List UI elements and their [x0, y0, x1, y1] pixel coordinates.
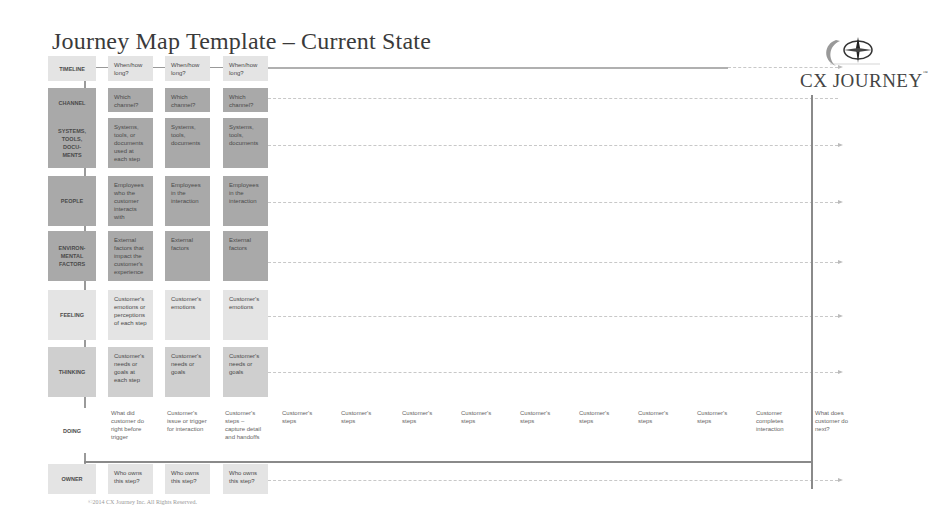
owner-cell: Who owns this step? — [108, 464, 153, 494]
environmental-cell: External factors that impact the custome… — [108, 231, 153, 281]
systems-cell: Systems, tools, or documents used at eac… — [108, 118, 153, 168]
doing-cell: Customer's steps — [402, 409, 442, 425]
row-guide-line — [258, 372, 838, 373]
thinking-cell: Customer's needs or goals — [165, 347, 210, 397]
doing-cell: Customer's steps — [697, 409, 737, 425]
timeline-connector — [96, 67, 108, 68]
right-border-line — [811, 95, 813, 489]
timeline-cell: When/how long? — [223, 56, 268, 81]
doing-cell: What did customer do right before trigge… — [111, 409, 151, 441]
trademark-symbol: ™ — [923, 70, 928, 75]
doing-cell: Customer's steps – capture detail and ha… — [225, 409, 265, 441]
timeline-line — [238, 67, 728, 69]
channel-cell: Which channel? — [223, 88, 268, 112]
timeline-cell: When/how long? — [165, 56, 210, 81]
row-guide-line — [258, 98, 838, 99]
row-guide-line — [258, 480, 838, 481]
environmental-cell: External factors — [165, 231, 210, 281]
doing-cell: Customer's steps — [579, 409, 619, 425]
channel-cell: Which channel? — [108, 88, 153, 112]
doing-cell: Customer's steps — [341, 409, 381, 425]
row-label-systems: SYSTEMS, TOOLS, DOCU-MENTS — [48, 118, 96, 168]
row-label-feeling: FEELING — [48, 290, 96, 340]
timeline-connector — [209, 67, 223, 68]
row-label-channel: CHANNEL — [48, 88, 96, 118]
page-title: Journey Map Template – Current State — [52, 28, 431, 55]
people-cell: Employees in the interaction — [165, 176, 210, 226]
timeline-connector — [151, 67, 165, 68]
arrow-icon — [838, 370, 843, 374]
arrow-icon — [838, 260, 843, 264]
logo-text: CX JOURNEY™ — [800, 70, 928, 92]
systems-cell: Systems, tools, documents — [165, 118, 210, 168]
logo-wordmark: CX JOURNEY — [800, 70, 923, 91]
feeling-cell: Customer's emotions — [165, 290, 210, 340]
owner-cell: Who owns this step? — [223, 464, 268, 494]
people-cell: Employees who the customer interacts wit… — [108, 176, 153, 226]
feeling-cell: Customer's emotions — [223, 290, 268, 340]
row-label-doing: DOING — [48, 408, 96, 453]
cx-journey-logo: CX JOURNEY™ — [800, 36, 910, 96]
copyright-footer: ©2014 CX Journey Inc. All Rights Reserve… — [88, 499, 197, 505]
row-label-thinking: THINKING — [48, 347, 96, 397]
people-cell: Employees in the interaction — [223, 176, 268, 226]
doing-cell: Customer's steps — [461, 409, 501, 425]
row-guide-line — [258, 262, 838, 263]
doing-cell: What does customer do next? — [815, 409, 857, 433]
row-label-people: PEOPLE — [48, 176, 96, 226]
feeling-cell: Customer's emotions or perceptions of ea… — [108, 290, 153, 340]
doing-cell: Customer completes interaction — [756, 409, 796, 433]
arrow-icon — [838, 478, 843, 482]
doing-cell: Customer's steps — [638, 409, 678, 425]
thinking-cell: Customer's needs or goals at each step — [108, 347, 153, 397]
doing-cell: Customer's steps — [282, 409, 322, 425]
doing-bottom-line — [84, 461, 813, 463]
arrow-icon — [838, 200, 843, 204]
doing-cell: Customer's issue or trigger for interact… — [167, 409, 209, 433]
row-label-environmental-factors: ENVIRON-MENTAL FACTORS — [48, 231, 96, 281]
doing-cell: Customer's steps — [520, 409, 560, 425]
timeline-cell: When/how long? — [108, 56, 153, 81]
row-label-owner: OWNER — [48, 464, 96, 494]
row-guide-line — [258, 202, 838, 203]
owner-cell: Who owns this step? — [165, 464, 210, 494]
arrow-icon — [838, 314, 843, 318]
compass-icon — [822, 36, 882, 68]
channel-cell: Which channel? — [165, 88, 210, 112]
row-guide-line — [258, 316, 838, 317]
arrow-icon — [838, 143, 843, 147]
arrow-icon — [838, 65, 843, 69]
thinking-cell: Customer's needs or goals — [223, 347, 268, 397]
row-guide-line — [258, 145, 838, 146]
row-guide-line — [728, 67, 838, 68]
row-label-timeline: TIMELINE — [48, 56, 96, 81]
environmental-cell: External factors — [223, 231, 268, 281]
systems-cell: Systems, tools, documents — [223, 118, 268, 168]
